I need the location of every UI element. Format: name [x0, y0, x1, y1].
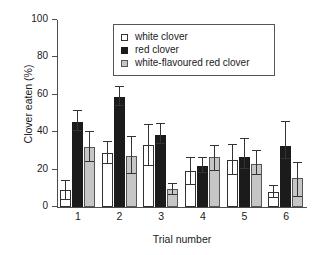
y-tick: 40	[52, 131, 57, 132]
error-bar-cap	[73, 110, 82, 111]
error-bar-cap	[156, 123, 165, 124]
error-bar-cap	[198, 157, 207, 158]
error-bar-cap	[228, 174, 237, 175]
legend-item[interactable]: red clover	[121, 44, 266, 56]
error-bar-cap	[210, 145, 219, 146]
error-bar-cap	[252, 174, 261, 175]
error-bar	[214, 146, 215, 170]
x-axis-title: Trial number	[57, 233, 307, 245]
error-bar	[160, 124, 161, 145]
error-bar-cap	[156, 143, 165, 144]
error-bar-cap	[85, 131, 94, 132]
error-bar-cap	[103, 163, 112, 164]
y-axis-title: Clover eaten (%)	[18, 11, 38, 198]
x-tick-label: 5	[227, 210, 263, 222]
error-bar-cap	[281, 158, 290, 159]
x-tick-label: 2	[102, 210, 138, 222]
error-bar	[202, 158, 203, 173]
bar[interactable]	[155, 135, 166, 207]
error-bar	[285, 122, 286, 159]
error-bar-cap	[269, 185, 278, 186]
error-bar-cap	[168, 194, 177, 195]
error-bar-cap	[186, 157, 195, 158]
y-tick: 80	[52, 56, 57, 57]
error-bar-cap	[198, 172, 207, 173]
legend-swatch-icon	[121, 34, 128, 41]
legend-item-label: white-flavoured red clover	[135, 57, 250, 69]
legend-item-label: red clover	[135, 44, 179, 56]
y-tick-label: 60	[37, 87, 48, 100]
legend-item[interactable]: white clover	[121, 31, 266, 43]
y-tick: 0	[52, 206, 57, 207]
clover-eaten-bar-chart: Clover eaten (%) 020406080100 123456 Tri…	[0, 0, 314, 255]
error-bar-cap	[252, 150, 261, 151]
error-bar-cap	[103, 141, 112, 142]
chart-legend: white cloverred cloverwhite-flavoured re…	[113, 24, 275, 76]
error-bar-cap	[85, 161, 94, 162]
error-bar-cap	[186, 184, 195, 185]
y-tick: 20	[52, 169, 57, 170]
error-bar	[244, 139, 245, 169]
x-tick-label: 6	[268, 210, 304, 222]
y-tick: 100	[52, 19, 57, 20]
error-bar	[65, 181, 66, 200]
legend-item-label: white clover	[135, 31, 188, 43]
error-bar-cap	[168, 183, 177, 184]
error-bar	[131, 137, 132, 174]
bar-slot	[84, 20, 95, 207]
error-bar-cap	[127, 173, 136, 174]
error-bar	[107, 142, 108, 164]
error-bar-cap	[293, 162, 302, 163]
error-bar	[256, 151, 257, 175]
bar-slot	[60, 20, 71, 207]
error-bar	[232, 145, 233, 175]
error-bar-cap	[240, 138, 249, 139]
bar-slot	[292, 20, 303, 207]
x-tick-label: 1	[60, 210, 96, 222]
bar-slot	[102, 20, 113, 207]
error-bar-cap	[61, 180, 70, 181]
error-bar-cap	[115, 105, 124, 106]
x-tick-label: 3	[143, 210, 179, 222]
bar[interactable]	[72, 122, 83, 207]
error-bar-cap	[210, 170, 219, 171]
bar-slot	[280, 20, 291, 207]
error-bar	[89, 132, 90, 162]
bar-slot	[72, 20, 83, 207]
y-tick-label: 80	[37, 49, 48, 62]
error-bar	[190, 158, 191, 184]
error-bar-cap	[115, 86, 124, 87]
y-tick: 60	[52, 94, 57, 95]
error-bar	[119, 87, 120, 106]
error-bar-cap	[61, 199, 70, 200]
legend-item[interactable]: white-flavoured red clover	[121, 57, 266, 69]
legend-swatch-icon	[121, 60, 128, 67]
bar-group: 1	[60, 20, 96, 207]
x-axis-line	[57, 207, 307, 208]
error-bar-cap	[228, 144, 237, 145]
error-bar-cap	[293, 196, 302, 197]
error-bar-cap	[144, 124, 153, 125]
y-tick-label: 20	[37, 162, 48, 175]
bar[interactable]	[114, 97, 125, 207]
error-bar-cap	[73, 130, 82, 131]
y-tick-label: 100	[31, 12, 48, 25]
y-tick-label: 0	[42, 199, 48, 212]
x-tick-label: 4	[185, 210, 221, 222]
error-bar-cap	[240, 168, 249, 169]
y-tick-label: 40	[37, 124, 48, 137]
error-bar	[148, 125, 149, 166]
error-bar-cap	[144, 165, 153, 166]
error-bar	[77, 111, 78, 132]
legend-swatch-icon	[121, 47, 128, 54]
error-bar	[297, 163, 298, 197]
error-bar-cap	[127, 136, 136, 137]
error-bar-cap	[281, 121, 290, 122]
error-bar-cap	[269, 197, 278, 198]
